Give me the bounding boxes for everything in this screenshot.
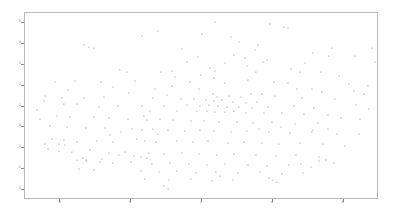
scatter-point <box>238 106 239 107</box>
x-tick-label: 4 <box>271 201 273 204</box>
scatter-point <box>268 131 269 132</box>
scatter-point <box>280 126 281 127</box>
y-tick-label: 3 <box>14 62 21 65</box>
scatter-point <box>180 98 181 99</box>
scatter-point <box>104 127 105 128</box>
y-tick-mark <box>21 64 24 65</box>
scatter-point <box>198 153 199 154</box>
scatter-point <box>266 165 267 166</box>
scatter-point <box>338 75 339 76</box>
scatter-point <box>192 141 193 142</box>
scatter-point <box>181 152 182 153</box>
scatter-point <box>152 97 153 98</box>
scatter-point <box>76 103 77 104</box>
scatter-point <box>108 117 109 118</box>
scatter-point <box>130 161 131 162</box>
scatter-point <box>327 128 328 129</box>
scatter-point <box>327 114 328 115</box>
scatter-point <box>283 26 284 27</box>
scatter-point <box>103 96 104 97</box>
scatter-point <box>236 121 237 122</box>
scatter-point <box>128 92 129 93</box>
scatter-point <box>233 110 234 111</box>
scatter-point <box>134 80 135 81</box>
scatter-point <box>233 54 234 55</box>
scatter-point <box>163 185 164 186</box>
scatter-point <box>215 171 216 172</box>
scatter-point <box>69 116 70 117</box>
y-tick-mark <box>21 147 24 148</box>
scatter-point <box>267 106 268 107</box>
scatter-point <box>112 141 113 142</box>
scatter-point <box>206 164 207 165</box>
scatter-point <box>358 133 359 134</box>
scatter-point <box>218 121 219 122</box>
scatter-point <box>176 170 177 171</box>
scatter-point <box>243 141 244 142</box>
scatter-point <box>205 99 206 100</box>
scatter-point <box>268 177 269 178</box>
scatter-point <box>112 86 113 87</box>
scatter-point <box>322 143 323 144</box>
scatter-point <box>171 70 172 71</box>
scatter-point <box>245 112 246 113</box>
scatter-point <box>163 153 164 154</box>
scatter-point <box>131 128 132 129</box>
scatter-point <box>276 181 277 182</box>
scatter-point <box>184 130 185 131</box>
scatter-point <box>232 101 233 102</box>
x-tick-label: 6 <box>342 201 344 204</box>
scatter-point <box>120 131 121 132</box>
scatter-point <box>344 145 345 146</box>
scatter-point <box>208 104 209 105</box>
scatter-point <box>230 131 231 132</box>
scatter-point <box>262 61 263 62</box>
scatter-point <box>47 148 48 149</box>
scatter-point <box>63 103 64 104</box>
scatter-point <box>310 166 311 167</box>
scatter-point <box>159 118 160 119</box>
scatter-point <box>255 71 256 72</box>
scatter-point <box>363 93 364 94</box>
scatter-point <box>195 172 196 173</box>
scatter-point <box>93 116 94 117</box>
scatter-point <box>141 129 142 130</box>
scatter-point <box>181 48 182 49</box>
scatter-point <box>82 157 83 158</box>
scatter-point <box>301 97 302 98</box>
y-tick-label: 5 <box>14 21 21 24</box>
scatter-point <box>288 164 289 165</box>
scatter-point <box>174 76 175 77</box>
scatter-point <box>348 83 349 84</box>
scatter-point <box>226 106 227 107</box>
scatter-point <box>168 179 169 180</box>
scatter-point <box>244 57 245 58</box>
scatter-point <box>100 81 101 82</box>
scatter-point <box>221 99 222 100</box>
x-tick-label: 0 <box>129 201 131 204</box>
scatter-point <box>157 30 158 31</box>
scatter-point <box>108 152 109 153</box>
plot-frame <box>24 12 378 199</box>
scatter-point <box>152 128 153 129</box>
scatter-point <box>144 140 145 141</box>
y-tick-label: 2 <box>14 83 21 86</box>
scatter-point <box>172 119 173 120</box>
y-tick-mark <box>21 85 24 86</box>
scatter-point <box>273 81 274 82</box>
scatter-point <box>214 21 215 22</box>
scatter-point <box>224 111 225 112</box>
scatter-point <box>54 81 55 82</box>
y-tick-mark <box>21 22 24 23</box>
scatter-point <box>246 65 247 66</box>
scatter-point <box>274 95 275 96</box>
scatter-point <box>275 155 276 156</box>
scatter-point <box>209 67 210 68</box>
y-tick-mark <box>21 189 24 190</box>
scatter-point <box>151 163 152 164</box>
scatter-point <box>101 158 102 159</box>
scatter-point <box>39 118 40 119</box>
scatter-point <box>63 139 64 140</box>
scatter-point <box>258 128 259 129</box>
scatter-point <box>216 154 217 155</box>
